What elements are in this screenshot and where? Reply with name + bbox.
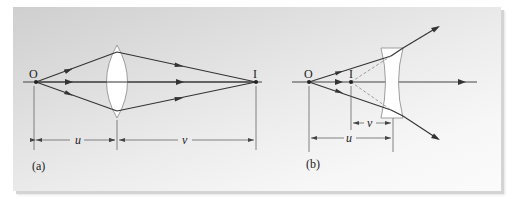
v-label: v (182, 133, 188, 147)
image-label: I (253, 67, 257, 81)
panel-a: O I u v (a) (23, 45, 262, 173)
caption-b: (b) (306, 157, 320, 171)
object-label: O (29, 67, 38, 81)
u-right-arrow-icon (109, 138, 115, 142)
object-label-b: O (304, 67, 313, 81)
u-label: u (75, 133, 81, 147)
rays-b (309, 27, 438, 139)
axis-arrow-icon (458, 79, 466, 85)
v-left-arrow-icon (119, 138, 125, 142)
u-left-arrow-icon-b (311, 136, 317, 140)
v-label-b: v (367, 116, 373, 130)
caption-a: (a) (32, 159, 45, 173)
u-right-arrow-icon-b (385, 136, 391, 140)
u-label-b: u (346, 131, 352, 145)
v-left-arrow-icon-b (353, 121, 359, 125)
panel-b: O I v u (b) (292, 26, 477, 171)
u-left-arrow-icon (36, 138, 42, 142)
v-right-arrow-icon-b (385, 121, 391, 125)
image-label-b: I (349, 67, 353, 81)
lens-diagram: O I u v (a) (0, 0, 520, 199)
